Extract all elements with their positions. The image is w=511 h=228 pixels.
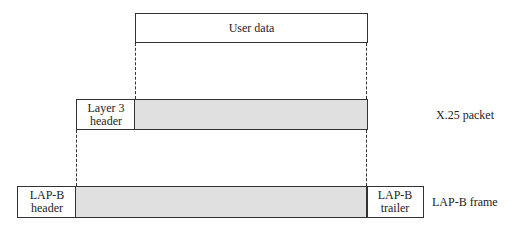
dashed-connector: [366, 43, 367, 99]
user-data-block: User data: [135, 13, 368, 43]
layer3-header-line2: header: [90, 115, 122, 128]
frame-payload-block: [75, 186, 368, 218]
dashed-connector: [135, 43, 136, 99]
lapb-trailer-line2: trailer: [381, 202, 410, 215]
packet-payload-block: [134, 99, 368, 130]
x25-packet-label: X.25 packet: [436, 108, 494, 123]
lapb-trailer-block: LAP-B trailer: [366, 186, 424, 218]
lapb-frame-label: LAP-B frame: [432, 195, 498, 210]
dashed-connector: [76, 130, 77, 186]
layer3-header-line1: Layer 3: [88, 102, 125, 115]
lapb-header-block: LAP-B header: [17, 186, 77, 218]
layer3-header-block: Layer 3 header: [76, 99, 136, 130]
lapb-header-line2: header: [31, 202, 63, 215]
dashed-connector: [366, 130, 367, 186]
user-data-label: User data: [229, 22, 275, 35]
